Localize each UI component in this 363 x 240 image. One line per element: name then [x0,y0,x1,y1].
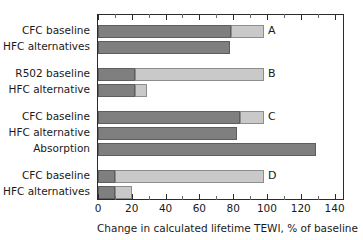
x-tick-minor-top [250,14,251,18]
x-tick-minor-top [318,14,319,18]
x-tick-major [199,194,200,200]
bar-segment-indirect [135,84,147,97]
x-tick-minor-top [284,14,285,18]
category-labels: CFC baseline HFC alternatives R502 basel… [0,0,94,200]
category-label-c2: HFC alternative [9,127,90,138]
category-label-c1: CFC baseline [22,111,90,122]
x-tick-major-top [132,14,133,20]
x-tick-major-top [335,14,336,20]
x-tick-label: 40 [159,203,172,214]
panel-letter-b: B [268,68,276,79]
x-tick-label: 20 [125,203,138,214]
x-tick-major-top [233,14,234,20]
x-tick-major-top [199,14,200,20]
bar-segment-indirect [240,111,264,124]
x-tick-major-top [267,14,268,20]
x-axis-title: Change in calculated lifetime TEWI, % of… [97,222,344,234]
bar-segment-direct [98,111,240,124]
x-tick-label: 0 [95,203,102,214]
x-tick-minor-top [216,14,217,18]
bar-segment-indirect [231,25,263,38]
category-label-a1: CFC baseline [22,25,90,36]
x-tick-minor-top [182,14,183,18]
x-tick-minor [216,196,217,200]
category-label-a2: HFC alternatives [3,41,90,52]
x-tick-label: 80 [226,203,239,214]
category-label-b2: HFC alternative [9,84,90,95]
bar-segment-indirect [115,186,132,199]
x-tick-label: 120 [291,203,311,214]
x-tick-label: 60 [193,203,206,214]
x-tick-minor [250,196,251,200]
x-tick-major [132,194,133,200]
bar-segment-direct [98,170,115,183]
bar-segment-direct [98,127,237,140]
x-tick-major-top [301,14,302,20]
x-tick-major [335,194,336,200]
panel-letter-a: A [268,25,276,36]
x-tick-minor [115,196,116,200]
x-tick-major [166,194,167,200]
bar-segment-direct [98,143,316,156]
bar-segment-direct [98,25,231,38]
x-tick-minor [149,196,150,200]
x-tick-minor [284,196,285,200]
x-tick-major [301,194,302,200]
x-tick-minor-top [149,14,150,18]
x-tick-major-top [98,14,99,20]
bar-segment-indirect [135,68,263,81]
category-label-d1: CFC baseline [22,170,90,181]
x-tick-label: 140 [325,203,345,214]
x-tick-major [233,194,234,200]
tewi-bar-chart: CFC baseline HFC alternatives R502 basel… [0,0,363,240]
bar-segment-indirect [115,170,264,183]
bar-segment-direct [98,41,230,54]
x-tick-label: 100 [257,203,277,214]
category-label-b1: R502 baseline [15,68,90,79]
category-label-c3: Absorption [33,143,90,154]
bar-segment-direct [98,186,115,199]
x-tick-minor [318,196,319,200]
bars-layer [98,15,343,199]
x-tick-minor [182,196,183,200]
panel-letter-d: D [268,170,276,181]
category-label-d2: HFC alternatives [3,186,90,197]
x-tick-minor-top [115,14,116,18]
x-tick-major-top [166,14,167,20]
bar-segment-direct [98,68,135,81]
panel-letter-c: C [268,111,276,122]
bar-segment-direct [98,84,135,97]
x-tick-major [98,194,99,200]
x-tick-major [267,194,268,200]
